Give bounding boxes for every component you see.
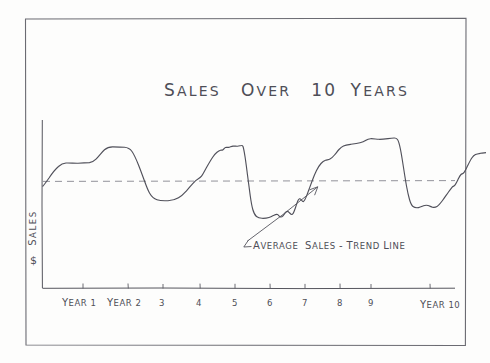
chart-title-10: 10 xyxy=(311,80,337,100)
chart-title: SALES OVER 10 YEARS xyxy=(164,80,409,100)
chart-title-ales: ALES xyxy=(177,83,221,99)
x-tick-label-4: 4 xyxy=(196,298,202,308)
x-tick-label-year-1: YEAR 1 xyxy=(61,297,96,308)
x-tick-label-3: 3 xyxy=(159,298,165,308)
chart-title-ver: VER xyxy=(256,83,291,99)
chart-title-y: Y xyxy=(350,80,364,100)
sketch-chart-page: SALES OVER 10 YEARS SALES $ YEAR 1 YEAR … xyxy=(0,0,490,363)
chart-title-s: S xyxy=(164,80,177,100)
trend-line-annotation-label: AVERAGE SALES - TREND LINE xyxy=(253,240,405,251)
x-tick-label-6: 6 xyxy=(267,298,273,308)
y-axis-unit-dollar: $ xyxy=(30,254,37,267)
x-tick-label-8: 8 xyxy=(337,298,343,308)
sales-line-chart: SALES OVER 10 YEARS SALES $ YEAR 1 YEAR … xyxy=(0,0,490,363)
x-tick-label-9: 9 xyxy=(368,298,374,308)
y-axis-title-s: S xyxy=(27,238,38,246)
x-tick-label-year-2: YEAR 2 xyxy=(106,297,141,308)
chart-title-o: O xyxy=(241,80,257,100)
x-axis-line xyxy=(42,288,455,289)
x-tick-label-7: 7 xyxy=(302,298,308,308)
x-tick-label-5: 5 xyxy=(232,298,238,308)
y-axis-title: SALES xyxy=(27,210,38,246)
chart-title-ears: EARS xyxy=(363,83,409,99)
x-tick-label-year-10: YEAR 10 xyxy=(419,299,460,310)
y-axis-title-ales: ALES xyxy=(28,210,38,238)
